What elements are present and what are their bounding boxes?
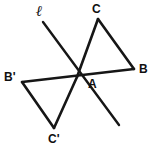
segment-A-Cprime	[54, 77, 77, 128]
segment-Bprime-Cprime	[22, 82, 54, 128]
vertex-label-a: A	[88, 78, 97, 90]
vertex-label-c: C	[92, 3, 101, 15]
vertex-label-c-prime: C'	[48, 133, 60, 145]
segment-CB	[98, 19, 134, 69]
line-l	[43, 22, 119, 125]
segment-AC	[77, 19, 98, 77]
vertex-label-b-prime: B'	[4, 71, 16, 83]
geometry-canvas	[0, 0, 159, 159]
geometry-figure: ℓ C B A B' C'	[0, 0, 159, 159]
line-l-label: ℓ	[36, 4, 42, 19]
vertex-label-b: B	[139, 63, 148, 75]
